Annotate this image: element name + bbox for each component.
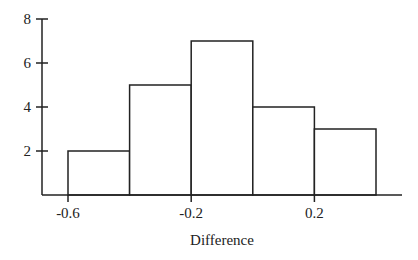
histogram-chart: 2468 -0.6-0.20.2 Difference bbox=[0, 0, 418, 260]
y-axis-ticks: 2468 bbox=[24, 11, 49, 159]
x-axis-title: Difference bbox=[190, 232, 254, 248]
y-tick-label: 8 bbox=[24, 11, 32, 27]
histogram-bar bbox=[253, 107, 315, 195]
y-tick-label: 2 bbox=[24, 143, 32, 159]
histogram-bars bbox=[68, 41, 376, 195]
histogram-bar bbox=[68, 151, 130, 195]
x-axis-ticks: -0.6-0.20.2 bbox=[56, 195, 324, 221]
x-tick-label: -0.6 bbox=[56, 205, 80, 221]
x-tick-label: 0.2 bbox=[305, 205, 324, 221]
y-tick-label: 6 bbox=[24, 55, 32, 71]
histogram-bar bbox=[191, 41, 253, 195]
x-tick-label: -0.2 bbox=[179, 205, 203, 221]
y-tick-label: 4 bbox=[24, 99, 32, 115]
histogram-bar bbox=[130, 85, 192, 195]
histogram-bar bbox=[314, 129, 376, 195]
